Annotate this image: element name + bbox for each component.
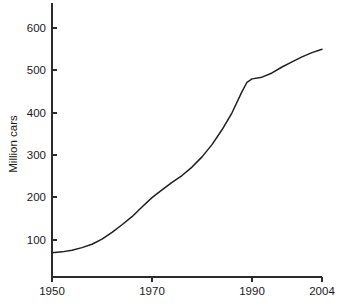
x-tick-label-2004: 2004 xyxy=(309,285,335,297)
x-tick-label-1970: 1970 xyxy=(139,285,165,297)
y-tick-label-400: 400 xyxy=(27,107,46,119)
y-tick-label-100: 100 xyxy=(27,234,46,246)
y-axis-label: Million cars xyxy=(7,115,19,173)
data-series-line xyxy=(52,49,322,253)
y-tick-label-300: 300 xyxy=(27,149,46,161)
y-tick-label-600: 600 xyxy=(27,22,46,34)
chart-figure: 100 200 300 400 500 600 1950 1970 1990 2… xyxy=(0,0,342,308)
line-chart-canvas: 100 200 300 400 500 600 1950 1970 1990 2… xyxy=(0,0,342,308)
y-tick-label-500: 500 xyxy=(27,64,46,76)
x-tick-label-1950: 1950 xyxy=(39,285,65,297)
y-tick-label-200: 200 xyxy=(27,191,46,203)
x-tick-label-1990: 1990 xyxy=(239,285,265,297)
